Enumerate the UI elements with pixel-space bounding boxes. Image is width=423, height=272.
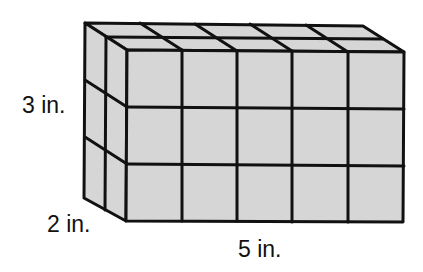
height-label: 3 in. (22, 94, 65, 117)
width-label: 2 in. (47, 213, 90, 236)
front-face (126, 50, 404, 222)
length-label: 5 in. (238, 238, 281, 261)
